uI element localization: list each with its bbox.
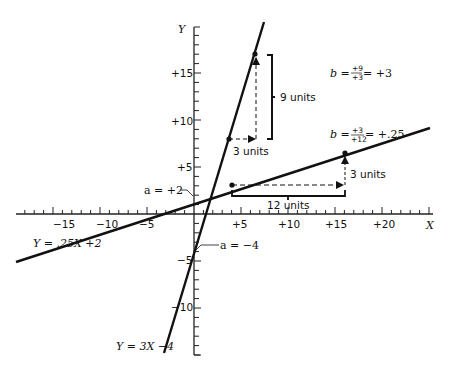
- x-tick-label: +15: [325, 218, 347, 230]
- slope-label-steep: b = +9 +3 = +3: [330, 64, 392, 82]
- coordinate-diagram: −15 −10 −5 +5 +10 +15 +20 X +15 +10 +5 −…: [0, 0, 450, 367]
- point-16-6: [342, 150, 347, 155]
- point-4-3: [229, 182, 234, 187]
- rise-label-3: 3 units: [350, 168, 386, 180]
- rise-label-9: 9 units: [280, 91, 316, 103]
- x-tick-label: −10: [96, 218, 118, 230]
- intercept-label-minus-4: a = −4: [220, 239, 259, 252]
- x-tick-label: +5: [232, 218, 247, 230]
- svg-text:+9: +9: [352, 64, 363, 73]
- x-axis-label: X: [425, 219, 435, 232]
- svg-text:= +.25: = +.25: [365, 128, 404, 141]
- point-4-8: [226, 136, 231, 141]
- x-axis: [16, 207, 433, 214]
- x-tick-label: +10: [278, 218, 300, 230]
- y-tick-label: +5: [177, 161, 192, 173]
- svg-text:+3: +3: [352, 126, 363, 135]
- x-tick-label: −15: [53, 218, 75, 230]
- svg-text:b =: b =: [330, 128, 350, 141]
- y-tick-label: −10: [171, 301, 193, 313]
- svg-text:= +3: = +3: [363, 67, 392, 80]
- point-7-17: [252, 51, 257, 56]
- slope-label-shallow: b = +3 +12 = +.25: [330, 126, 404, 144]
- x-tick-labels: −15 −10 −5 +5 +10 +15 +20 X: [53, 218, 435, 232]
- run-label-12: 12 units: [267, 199, 310, 211]
- run-label-3: 3 units: [233, 145, 269, 157]
- x-tick-label: +20: [373, 218, 395, 230]
- svg-text:b =: b =: [330, 67, 350, 80]
- y-axis: [194, 27, 201, 355]
- equation-steep: Y = 3X −4: [116, 340, 174, 353]
- y-tick-label: +15: [171, 67, 193, 79]
- y-axis-label: Y: [178, 23, 187, 36]
- y-tick-label: +10: [171, 115, 193, 127]
- equation-shallow: Y = .25X +2: [33, 237, 102, 250]
- intercept-label-plus-2: a = +2: [144, 184, 183, 197]
- svg-text:+3: +3: [352, 73, 363, 82]
